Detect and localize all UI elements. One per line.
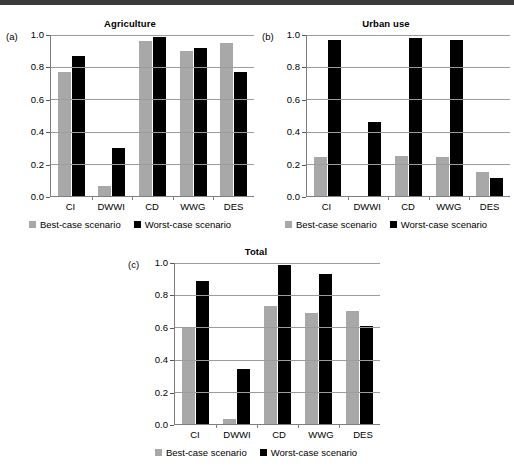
gridline (175, 295, 380, 296)
x-tick-mark (216, 424, 217, 428)
x-tick-label: DES (342, 429, 384, 440)
bar-group (257, 263, 298, 424)
bar-best-case (182, 327, 195, 424)
bar-worst-case (319, 274, 332, 424)
y-tick-label: 0.6 (287, 95, 300, 105)
legend-agriculture: Best-case scenario Worst-case scenario (6, 219, 254, 230)
x-tick-mark (388, 196, 389, 200)
x-tick-mark (348, 196, 349, 200)
bar-worst-case (328, 40, 341, 196)
gridline (175, 327, 380, 328)
bar-best-case (223, 419, 236, 424)
bar-group (175, 263, 216, 424)
bar-group (348, 35, 389, 196)
bar-worst-case (490, 178, 503, 196)
x-tick-label: DWWI (91, 201, 132, 212)
x-axis-labels-urban-use: CIDWWICDWWGDES (306, 201, 510, 212)
bar-group (173, 35, 214, 196)
y-tick-label: 0.2 (287, 160, 300, 170)
legend-swatch-best-icon (285, 221, 292, 228)
y-tick-label: 0.0 (31, 192, 44, 202)
bar-group-container-urban-use (307, 35, 510, 196)
bar-best-case (264, 306, 277, 424)
x-tick-mark (132, 196, 133, 200)
legend-swatch-worst-icon (260, 449, 267, 456)
plot-body-urban-use: 1.00.80.60.40.20.0 (280, 35, 510, 197)
x-axis-labels-total: CIDWWICDWWGDES (174, 429, 384, 440)
bar-group (469, 35, 510, 196)
x-tick-label: CD (258, 429, 300, 440)
y-tick-label: 0.2 (155, 388, 168, 398)
legend-label-worst: Worst-case scenario (145, 219, 231, 230)
bar-group-container-total (175, 263, 380, 424)
bar-best-case (305, 313, 318, 424)
x-tick-mark (298, 424, 299, 428)
bar-best-case (139, 41, 152, 196)
bar-group (298, 263, 339, 424)
bar-group-container-agriculture (51, 35, 254, 196)
x-tick-label: DWWI (216, 429, 258, 440)
bar-group (307, 35, 348, 196)
plot-area-total (174, 263, 380, 425)
x-tick-mark (429, 196, 430, 200)
gridline (51, 67, 254, 68)
legend-swatch-worst-icon (134, 221, 141, 228)
legend-total: Best-case scenario Worst-case scenario (128, 447, 384, 458)
x-tick-label: CI (306, 201, 347, 212)
x-tick-label: WWG (172, 201, 213, 212)
bar-best-case (98, 186, 111, 196)
gridline (51, 35, 254, 36)
x-tick-label: WWG (300, 429, 342, 440)
y-tick-mark (46, 197, 50, 198)
bar-best-case (395, 156, 408, 196)
x-tick-label: DES (469, 201, 510, 212)
legend-label-best: Best-case scenario (296, 219, 377, 230)
figure-three-panel-bar-charts: Agriculture (a) 1.00.80.60.40.20.0 CIDWW… (0, 5, 514, 469)
x-tick-label: CI (174, 429, 216, 440)
bar-best-case (220, 43, 233, 196)
x-tick-label: DES (213, 201, 254, 212)
bar-group (213, 35, 254, 196)
y-tick-label: 0.4 (31, 127, 44, 137)
y-tick-label: 0.4 (155, 355, 168, 365)
panel-total: Total (c) 1.00.80.60.40.20.0 CIDWWICDWWG… (128, 245, 384, 469)
gridline (175, 392, 380, 393)
legend-item-worst: Worst-case scenario (260, 447, 357, 458)
x-tick-label: CD (388, 201, 429, 212)
x-tick-mark (469, 196, 470, 200)
bar-worst-case (450, 40, 463, 196)
bar-best-case (476, 172, 489, 196)
bar-best-case (58, 72, 71, 196)
x-axis-labels-agriculture: CIDWWICDWWGDES (50, 201, 254, 212)
x-tick-mark (173, 196, 174, 200)
bar-worst-case (360, 326, 373, 424)
bar-worst-case (194, 48, 207, 196)
bar-worst-case (234, 72, 247, 196)
x-tick-mark (257, 424, 258, 428)
legend-label-worst: Worst-case scenario (401, 219, 487, 230)
legend-swatch-best-icon (29, 221, 36, 228)
bar-worst-case (112, 148, 125, 196)
bar-group (339, 263, 380, 424)
y-tick-label: 0.8 (31, 63, 44, 73)
bar-group (51, 35, 92, 196)
y-tick-label: 1.0 (287, 30, 300, 40)
y-axis-agriculture: 1.00.80.60.40.20.0 (24, 35, 50, 197)
bar-group (429, 35, 470, 196)
legend-item-best: Best-case scenario (155, 447, 247, 458)
y-axis-urban-use: 1.00.80.60.40.20.0 (280, 35, 306, 197)
y-axis-total: 1.00.80.60.40.20.0 (148, 263, 174, 425)
y-tick-label: 0.2 (31, 160, 44, 170)
legend-item-worst: Worst-case scenario (390, 219, 487, 230)
gridline (307, 164, 510, 165)
y-tick-label: 1.0 (155, 258, 168, 268)
x-tick-label: CD (132, 201, 173, 212)
y-tick-label: 0.8 (155, 291, 168, 301)
plot-body-total: 1.00.80.60.40.20.0 (148, 263, 380, 425)
x-tick-label: WWG (428, 201, 469, 212)
legend-swatch-worst-icon (390, 221, 397, 228)
gridline (51, 132, 254, 133)
legend-swatch-best-icon (155, 449, 162, 456)
gridline (175, 360, 380, 361)
y-tick-mark (170, 425, 174, 426)
